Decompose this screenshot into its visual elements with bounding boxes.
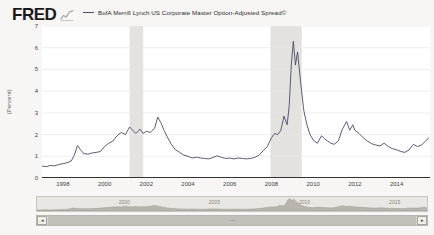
x-tick-label: 2004	[181, 181, 194, 188]
y-tick-label: 4	[20, 88, 38, 94]
legend-series-label: BofA Merrill Lynch US Corporate Master O…	[98, 9, 286, 16]
x-tick-label: 2008	[265, 181, 278, 188]
plot-area: (Percent) 01234567 199820002002200420062…	[0, 26, 434, 191]
x-tick-label: 2010	[306, 181, 319, 188]
horizontal-scrollbar[interactable]: ◂ ⋯ ▸	[36, 215, 428, 226]
x-tick-label: 2000	[98, 181, 111, 188]
series-line-chart	[42, 26, 430, 178]
legend-color-swatch	[83, 12, 94, 13]
y-tick-label: 2	[20, 132, 38, 138]
navigator-area-chart	[37, 197, 427, 211]
x-tick-label: 2012	[348, 181, 361, 188]
x-tick-label: 1998	[56, 181, 69, 188]
navigator-tick-label: 2000	[119, 199, 130, 205]
chart-header: FRED BofA Merrill Lynch US Corporate Mas…	[0, 0, 434, 26]
chart-legend: BofA Merrill Lynch US Corporate Master O…	[83, 9, 286, 16]
scroll-right-button[interactable]: ▸	[417, 216, 427, 225]
plot-canvas[interactable]	[42, 26, 430, 178]
x-tick-label: 2002	[140, 181, 153, 188]
x-tick-label: 2006	[223, 181, 236, 188]
y-tick-label: 3	[20, 110, 38, 116]
y-tick-label: 6	[20, 45, 38, 51]
y-tick-label: 7	[20, 23, 38, 29]
y-tick-label: 5	[20, 66, 38, 72]
navigator-tick-label: 2015	[389, 199, 400, 205]
fred-chart-screenshot: FRED BofA Merrill Lynch US Corporate Mas…	[0, 0, 434, 235]
y-axis-ticks: 01234567	[16, 26, 38, 178]
navigator-tick-label: 2010	[299, 199, 310, 205]
scrollbar-thumb[interactable]: ⋯	[48, 216, 416, 225]
x-axis-ticks: 199820002002200420062008201020122014	[0, 178, 434, 191]
y-tick-label: 1	[20, 153, 38, 159]
fred-logo[interactable]: FRED	[12, 6, 56, 23]
range-navigator[interactable]: 2000200520102015	[36, 196, 428, 216]
x-tick-label: 2014	[390, 181, 403, 188]
mini-chart-icon	[60, 10, 74, 21]
y-axis-title: (Percent)	[6, 89, 12, 114]
scrollbar-grip-icon: ⋯	[230, 218, 235, 223]
navigator-tick-label: 2005	[209, 199, 220, 205]
scroll-left-button[interactable]: ◂	[37, 216, 47, 225]
navigator-minimap[interactable]	[36, 196, 428, 212]
